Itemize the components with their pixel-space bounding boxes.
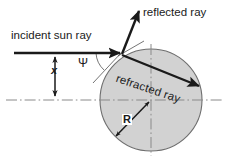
reflected-ray-label: reflected ray	[143, 7, 206, 19]
incident-sun-ray-label: incident sun ray	[11, 30, 92, 42]
angle-arc	[96, 53, 104, 70]
angle-psi-label: Ψ	[78, 57, 88, 69]
reflected-ray-arrow	[122, 11, 139, 54]
offset-x-label: x	[51, 65, 57, 76]
diagram-canvas	[0, 0, 229, 158]
radius-R-label: R	[122, 114, 132, 125]
optics-diagram: incident sun ray reflected ray refracted…	[0, 0, 229, 158]
